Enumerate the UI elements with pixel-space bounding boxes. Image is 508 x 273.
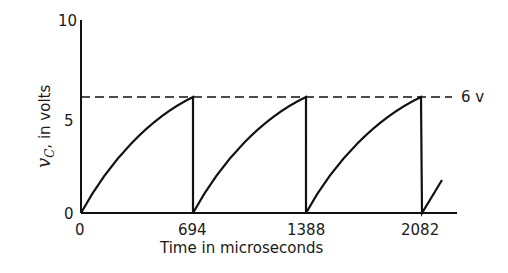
y-axis-label-var: v — [33, 158, 54, 168]
x-tick-label: 1388 — [287, 221, 325, 239]
y-axis-label: vC, in volts — [33, 85, 57, 168]
chart: 10 5 0 0 694 1388 2082 Time in microseco… — [0, 0, 508, 273]
y-tick-label: 5 — [64, 112, 74, 130]
y-tick-label: 0 — [64, 205, 74, 223]
x-axis-label: Time in microseconds — [159, 239, 323, 257]
x-tick-label: 0 — [75, 221, 85, 239]
svg-text:vC, in volts: vC, in volts — [33, 85, 57, 168]
y-axis-label-rest: , in volts — [36, 85, 54, 149]
x-tick-label: 2082 — [401, 221, 439, 239]
x-tick-label: 694 — [178, 221, 207, 239]
sawtooth-curve — [81, 97, 442, 213]
reference-line-label: 6 v — [461, 88, 484, 106]
y-tick-label: 10 — [58, 12, 77, 30]
y-axis-label-sub: C — [43, 149, 57, 158]
